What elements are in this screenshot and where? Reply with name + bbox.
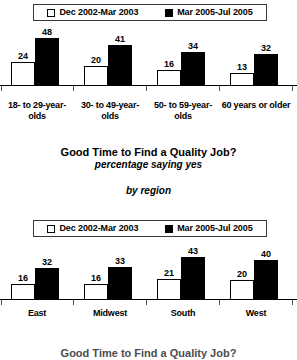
bar-group: 16 33 [73,248,146,300]
bar-value-label: 33 [102,257,138,266]
legend-label-mar2005: Mar 2005-Jul 2005 [177,8,252,17]
bar-series-b [181,52,205,86]
filled-square-icon [165,9,173,17]
axis-tick [292,300,293,305]
hollow-square-icon [47,225,55,233]
bar-series-b [181,257,205,300]
axis-tick [73,300,74,305]
bar-group: 21 43 [146,248,219,300]
bar-value-label: 43 [175,247,211,256]
axis-tick [146,86,147,91]
legend-bottom: Dec 2002-Mar 2003 Mar 2005-Jul 2005 [33,220,267,237]
bar-series-a [230,73,254,86]
category-label-30-49: 30- to 49-year-olds [73,100,147,122]
bar-series-a [157,70,181,86]
legend-entry-mar2005: Mar 2005-Jul 2005 [165,8,252,17]
bar-series-b [108,267,132,300]
bar-value-label: 40 [248,250,284,259]
legend-top: Dec 2002-Mar 2003 Mar 2005-Jul 2005 [33,4,267,21]
bar-series-b [108,45,132,86]
bar-value-label: 34 [175,42,211,51]
hollow-square-icon [47,9,55,17]
legend-entry-dec2002: Dec 2002-Mar 2003 [47,8,138,17]
bar-series-b [35,268,59,300]
page-title: Good Time to Find a Quality Job? [0,146,297,159]
category-label-midwest: Midwest [73,308,147,319]
category-label-east: East [0,308,74,319]
bar-group: 13 32 [219,30,292,86]
bar-series-b [254,260,278,300]
bar-value-label: 41 [102,35,138,44]
chart-top-plot: 24 48 20 41 16 34 13 32 [0,30,297,86]
bar-value-label: 32 [248,44,284,53]
axis-tick [73,86,74,91]
bar-group: 16 34 [146,30,219,86]
axis-tick [219,300,220,305]
bar-value-label: 48 [29,28,65,37]
legend-label-dec2002: Dec 2002-Mar 2003 [59,8,138,17]
bar-series-a [84,284,108,300]
bar-group: 16 32 [0,248,73,300]
category-label-60-older: 60 years or older [219,100,293,111]
bar-group: 20 40 [219,248,292,300]
bar-series-b [254,54,278,86]
axis-tick [1,300,2,305]
bar-series-a [230,280,254,300]
axis-tick [219,86,220,91]
axis-tick [146,300,147,305]
bar-series-a [84,66,108,86]
legend-label-mar2005: Mar 2005-Jul 2005 [177,224,252,233]
legend-entry-dec2002: Dec 2002-Mar 2003 [47,224,138,233]
chart-bottom-plot: 16 32 16 33 21 43 20 40 [0,248,297,300]
legend-entry-mar2005: Mar 2005-Jul 2005 [165,224,252,233]
bar-series-b [35,38,59,86]
breakdown-label: by region [0,185,297,197]
bar-group: 20 41 [73,30,146,86]
category-label-50-59: 50- to 59-year-olds [146,100,220,122]
bar-series-a [157,279,181,300]
page-subtitle: percentage saying yes [0,159,297,171]
bar-series-a [11,62,35,86]
next-chart-title-clipped: Good Time to Find a Quality Job? [0,347,297,360]
filled-square-icon [165,225,173,233]
bar-group: 24 48 [0,30,73,86]
axis-tick [292,86,293,91]
bar-series-a [11,284,35,300]
axis-tick [1,86,2,91]
category-label-18-29: 18- to 29-year-olds [0,100,74,122]
category-label-west: West [219,308,293,319]
category-label-south: South [146,308,220,319]
bar-value-label: 32 [29,258,65,267]
legend-label-dec2002: Dec 2002-Mar 2003 [59,224,138,233]
